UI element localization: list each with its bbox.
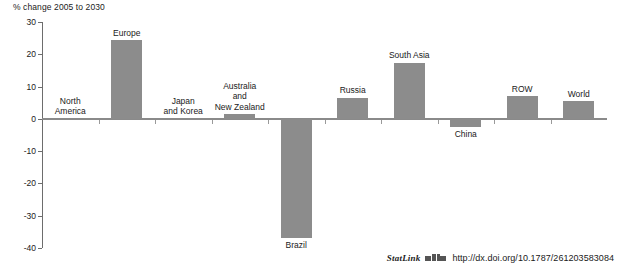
y-tick-mark (38, 22, 42, 23)
bar (281, 119, 312, 238)
y-tick-mark (38, 87, 42, 88)
bar-category-label: ROW (490, 84, 555, 95)
y-axis-line (42, 22, 43, 248)
y-tick-mark (38, 216, 42, 217)
y-tick-mark (38, 151, 42, 152)
y-tick-label: -10 (24, 146, 36, 156)
bar (337, 98, 368, 119)
bar-category-label: Japan and Korea (151, 96, 216, 117)
bar-category-label: South Asia (377, 50, 442, 61)
y-axis-caption: % change 2005 to 2030 (13, 2, 105, 12)
bar-category-label: Europe (94, 28, 159, 39)
y-tick-mark (38, 54, 42, 55)
bar-category-label: North America (38, 96, 103, 117)
category-tick (438, 120, 439, 124)
y-tick-label: 0 (31, 114, 36, 124)
y-tick-mark (38, 183, 42, 184)
plot-area: 3020100-10-20-30-40 North AmericaEuropeJ… (42, 22, 607, 248)
y-tick-label: 30 (27, 17, 36, 27)
category-tick (268, 120, 269, 124)
statlink-2d-icon (425, 254, 447, 262)
bar (394, 63, 425, 119)
bar-category-label: World (546, 89, 611, 100)
y-tick-label: -30 (24, 211, 36, 221)
statlink-footer: StatLink http://dx.doi.org/10.1787/26120… (0, 250, 622, 266)
bar-category-label: China (433, 129, 498, 140)
statlink-url-link[interactable]: http://dx.doi.org/10.1787/261203583084 (452, 253, 614, 263)
bar (507, 96, 538, 119)
bar (450, 119, 481, 127)
category-tick (551, 120, 552, 124)
bar-chart-figure: % change 2005 to 2030 3020100-10-20-30-4… (0, 0, 622, 272)
bar (111, 40, 142, 118)
category-tick (212, 120, 213, 124)
category-tick (381, 120, 382, 124)
y-tick-mark (38, 248, 42, 249)
statlink-label: StatLink (387, 253, 421, 263)
bar (224, 114, 255, 119)
category-tick (494, 120, 495, 124)
category-tick (155, 120, 156, 124)
category-tick (99, 120, 100, 124)
y-tick-label: 10 (27, 82, 36, 92)
category-tick (325, 120, 326, 124)
bar-category-label: Russia (320, 85, 385, 96)
y-tick-label: 20 (27, 49, 36, 59)
y-tick-label: -20 (24, 178, 36, 188)
bar-category-label: Australia and New Zealand (207, 81, 272, 113)
bar (563, 101, 594, 118)
